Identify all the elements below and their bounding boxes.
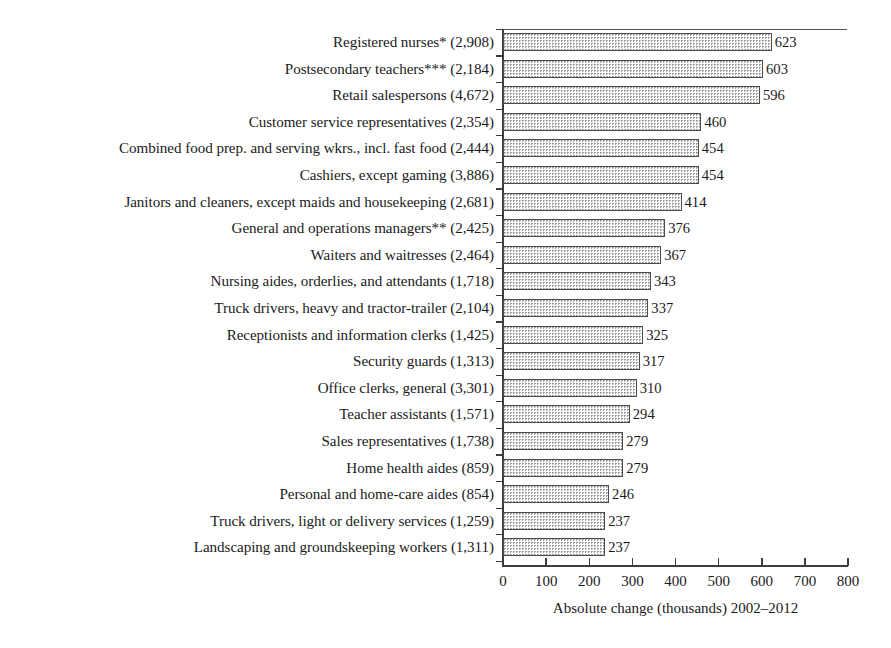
- bar-value-label: 460: [704, 113, 726, 131]
- x-axis-tick: [502, 558, 504, 566]
- category-label: Combined food prep. and serving wkrs., i…: [32, 139, 494, 157]
- bar-row: Janitors and cleaners, except maids and …: [0, 193, 891, 211]
- bar-row: Nursing aides, orderlies, and attendants…: [0, 272, 891, 290]
- bar-row: Sales representatives (1,738)279: [0, 432, 891, 450]
- bar-row: Office clerks, general (3,301)310: [0, 379, 891, 397]
- x-axis-tick: [545, 558, 547, 566]
- y-axis-tick: [496, 215, 503, 216]
- x-axis-tick: [761, 558, 763, 566]
- bar: [503, 538, 605, 556]
- bar-row: Postsecondary teachers*** (2,184)603: [0, 60, 891, 78]
- category-label: Teacher assistants (1,571): [32, 405, 494, 423]
- category-label: Truck drivers, light or delivery service…: [32, 512, 494, 530]
- category-label: Truck drivers, heavy and tractor-trailer…: [32, 299, 494, 317]
- bar: [503, 326, 643, 344]
- category-label: Retail salespersons (4,672): [32, 86, 494, 104]
- bar-value-label: 279: [626, 459, 648, 477]
- category-label: Nursing aides, orderlies, and attendants…: [32, 272, 494, 290]
- category-label: General and operations managers** (2,425…: [32, 219, 494, 237]
- bar-value-label: 337: [651, 299, 673, 317]
- category-label: Personal and home-care aides (854): [32, 485, 494, 503]
- bar-row: Receptionists and information clerks (1,…: [0, 326, 891, 344]
- y-axis-tick: [496, 82, 503, 83]
- bar: [503, 60, 763, 78]
- y-axis-tick: [496, 348, 503, 349]
- bar-row: Truck drivers, light or delivery service…: [0, 512, 891, 530]
- y-axis-tick: [496, 428, 503, 429]
- bar-value-label: 376: [668, 219, 690, 237]
- bar-row: General and operations managers** (2,425…: [0, 219, 891, 237]
- bar: [503, 33, 772, 51]
- x-axis-tick-label: 600: [751, 572, 774, 590]
- y-axis-tick: [496, 242, 503, 243]
- bar-value-label: 246: [612, 485, 634, 503]
- y-axis-tick: [496, 401, 503, 402]
- bar: [503, 299, 648, 317]
- x-axis-tick: [847, 558, 849, 566]
- x-axis-tick: [589, 558, 591, 566]
- x-axis-tick-label: 300: [621, 572, 644, 590]
- bar-row: Customer service representatives (2,354)…: [0, 113, 891, 131]
- bar-value-label: 237: [608, 538, 630, 556]
- bar: [503, 193, 682, 211]
- y-axis-tick: [496, 188, 503, 189]
- x-axis-tick-label: 700: [794, 572, 817, 590]
- y-axis-tick: [496, 135, 503, 136]
- y-axis-tick: [496, 295, 503, 296]
- x-axis-tick-label: 100: [535, 572, 558, 590]
- y-axis-tick: [496, 109, 503, 110]
- bar: [503, 459, 623, 477]
- bar-value-label: 596: [763, 86, 785, 104]
- bar: [503, 166, 699, 184]
- plot-top-rule: [502, 29, 847, 30]
- bar-row: Retail salespersons (4,672)596: [0, 86, 891, 104]
- bar-row: Registered nurses* (2,908)623: [0, 33, 891, 51]
- x-axis-tick-label: 800: [837, 572, 860, 590]
- bar: [503, 405, 630, 423]
- bar: [503, 86, 760, 104]
- bar-value-label: 310: [640, 379, 662, 397]
- bar-row: Combined food prep. and serving wkrs., i…: [0, 139, 891, 157]
- y-axis-tick: [496, 29, 503, 30]
- bar-chart: Registered nurses* (2,908)623Postseconda…: [0, 0, 891, 648]
- bar-row: Landscaping and groundskeeping workers (…: [0, 538, 891, 556]
- x-axis-tick: [804, 558, 806, 566]
- bar-value-label: 237: [608, 512, 630, 530]
- bar: [503, 432, 623, 450]
- bar-row: Cashiers, except gaming (3,886)454: [0, 166, 891, 184]
- bar: [503, 352, 640, 370]
- y-axis-tick: [496, 321, 503, 322]
- category-label: Janitors and cleaners, except maids and …: [32, 193, 494, 211]
- x-axis-caption: Absolute change (thousands) 2002–2012: [503, 598, 848, 618]
- y-axis-tick: [496, 375, 503, 376]
- bar: [503, 379, 637, 397]
- plot-area: Registered nurses* (2,908)623Postseconda…: [0, 0, 891, 648]
- bar: [503, 246, 661, 264]
- x-axis-tick: [632, 558, 634, 566]
- y-axis-tick: [496, 268, 503, 269]
- y-axis-tick: [496, 454, 503, 455]
- category-label: Registered nurses* (2,908): [32, 33, 494, 51]
- category-label: Customer service representatives (2,354): [32, 113, 494, 131]
- y-axis-tick: [496, 162, 503, 163]
- bar: [503, 485, 609, 503]
- bar-value-label: 279: [626, 432, 648, 450]
- bar: [503, 113, 701, 131]
- bar-value-label: 317: [643, 352, 665, 370]
- bar-value-label: 623: [775, 33, 797, 51]
- bar-row: Teacher assistants (1,571)294: [0, 405, 891, 423]
- bar-row: Home health aides (859)279: [0, 459, 891, 477]
- x-axis-tick-label: 200: [578, 572, 601, 590]
- category-label: Receptionists and information clerks (1,…: [32, 326, 494, 344]
- category-label: Office clerks, general (3,301): [32, 379, 494, 397]
- category-label: Landscaping and groundskeeping workers (…: [32, 538, 494, 556]
- bar-row: Personal and home-care aides (854)246: [0, 485, 891, 503]
- bar: [503, 512, 605, 530]
- bar-value-label: 294: [633, 405, 655, 423]
- bar-value-label: 603: [766, 60, 788, 78]
- bar-value-label: 343: [654, 272, 676, 290]
- bar-row: Truck drivers, heavy and tractor-trailer…: [0, 299, 891, 317]
- category-label: Sales representatives (1,738): [32, 432, 494, 450]
- x-axis-tick: [675, 558, 677, 566]
- bar-value-label: 367: [664, 246, 686, 264]
